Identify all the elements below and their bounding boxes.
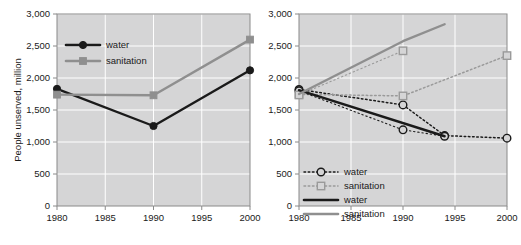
chart-svg-right: 05001,0001,5002,0002,5003,00019801985199…	[259, 0, 521, 245]
y-tick-label: 1,500	[268, 104, 292, 115]
legend-label: water	[105, 39, 129, 50]
legend-label: sanitation	[106, 55, 147, 66]
data-point-marker	[503, 134, 511, 142]
y-tick-label: 2,000	[268, 72, 292, 83]
y-tick-label: 500	[276, 168, 292, 179]
x-tick-label: 2000	[239, 212, 260, 223]
chart-panel-right: 05001,0001,5002,0002,5003,00019801985199…	[259, 0, 521, 245]
x-tick-label: 2000	[496, 212, 517, 223]
data-point-marker	[54, 91, 61, 98]
data-point-marker	[246, 67, 253, 74]
y-tick-label: 3,000	[268, 8, 292, 19]
data-point-marker	[150, 92, 157, 99]
legend-label: sanitation	[344, 208, 385, 219]
x-tick-label: 1995	[191, 212, 212, 223]
legend-item: sanitation	[304, 208, 385, 219]
data-point-marker	[399, 92, 406, 99]
data-point-marker	[399, 126, 407, 134]
data-point-marker	[399, 101, 407, 109]
y-tick-label: 2,500	[26, 40, 50, 51]
data-point-marker	[80, 58, 87, 65]
data-point-marker	[79, 41, 86, 48]
legend-label: sanitation	[344, 180, 385, 191]
y-tick-label: 1,500	[26, 104, 50, 115]
chart-svg-left: 05001,0001,5002,0002,5003,00019801985199…	[0, 0, 262, 245]
y-axis-title: People unserved, million	[12, 58, 23, 162]
data-point-marker	[150, 122, 157, 129]
data-point-marker	[317, 168, 325, 176]
y-tick-label: 2,000	[26, 72, 50, 83]
x-tick-label: 1990	[143, 212, 164, 223]
legend-label: water	[343, 166, 367, 177]
legend-label: water	[343, 194, 367, 205]
x-tick-label: 1980	[46, 212, 67, 223]
y-tick-label: 0	[45, 200, 50, 211]
y-tick-label: 3,000	[26, 8, 50, 19]
y-tick-label: 2,500	[268, 40, 292, 51]
data-point-marker	[399, 47, 406, 54]
data-point-marker	[247, 36, 254, 43]
y-tick-label: 500	[34, 168, 50, 179]
x-tick-label: 1985	[95, 212, 116, 223]
y-tick-label: 1,000	[268, 136, 292, 147]
chart-panel-left: 05001,0001,5002,0002,5003,00019801985199…	[0, 0, 262, 245]
figure-root: 05001,0001,5002,0002,5003,00019801985199…	[0, 0, 521, 245]
x-tick-label: 1990	[392, 212, 413, 223]
y-tick-label: 0	[287, 200, 292, 211]
data-point-marker	[503, 52, 510, 59]
x-tick-label: 1995	[444, 212, 465, 223]
data-point-marker	[317, 182, 324, 189]
y-tick-label: 1,000	[26, 136, 50, 147]
